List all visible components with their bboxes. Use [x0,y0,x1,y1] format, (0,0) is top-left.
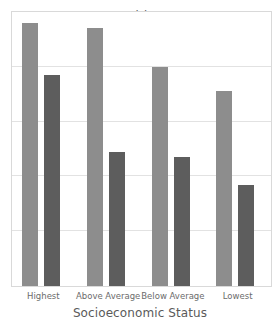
bar [238,185,254,286]
x-axis-title: Socioeconomic Status [0,306,280,320]
bar-chart: Girls HighestAbove AverageBelow AverageL… [0,0,280,328]
x-axis-tick-labels: HighestAbove AverageBelow AverageLowest [11,291,272,307]
plot-area [11,11,272,287]
x-tick-label: Lowest [205,291,270,301]
bar-group [142,12,207,286]
bar-group [206,12,271,286]
bar [109,152,125,286]
x-tick-label: Above Average [76,291,141,301]
bar [22,23,38,286]
x-tick-label: Highest [11,291,76,301]
x-tick-label: Below Average [141,291,206,301]
bar-group [77,12,142,286]
bar [216,91,232,286]
bar [152,67,168,286]
bar [87,28,103,286]
bar-group [12,12,77,286]
bar [174,157,190,286]
bar [44,75,60,286]
